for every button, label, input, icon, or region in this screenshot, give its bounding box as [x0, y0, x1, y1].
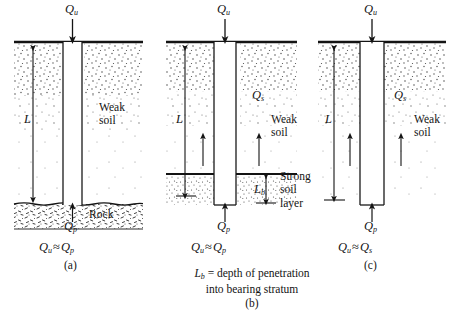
panel-b-weak-soil-label: Weak soil [271, 113, 297, 140]
panel-c-length-label: L [325, 112, 332, 127]
panel-a-caption: (a) [64, 259, 77, 271]
panel-c-equation: Qu≈Qs [338, 240, 372, 255]
panel-a-rock-label: Rock [89, 208, 114, 221]
panel-c-weak-soil-label: Weak soil [414, 113, 440, 140]
panel-b-note-line2: into bearing stratum [157, 282, 347, 296]
pile-foundation-figure: Qu L Weak soil Rock Qp Qu≈Qp (a) Qu L Qs… [0, 0, 460, 321]
panel-c-tip-load-label: Qp [364, 219, 377, 234]
panel-b-note: Lb = depth of penetration into bearing s… [157, 266, 347, 311]
panel-b-equation: Qu≈Qp [191, 240, 226, 255]
panel-b-note-line1: Lb = depth of penetration [157, 266, 347, 282]
panel-b-strong-soil-label: Strong soil layer [280, 170, 311, 210]
panel-c-caption: (c) [364, 259, 377, 271]
panel-a-tip-load-label: Qp [64, 219, 77, 234]
panel-a-load-label: Qu [65, 2, 78, 17]
panel-b-skin-friction-label: Qs [252, 88, 264, 103]
panel-b-length-label: L [176, 112, 183, 127]
panel-c-load-label: Qu [364, 2, 377, 17]
panel-b-tip-load-label: Qp [217, 219, 230, 234]
panel-a-weak-soil-label: Weak soil [99, 101, 125, 128]
panel-b-caption: (b) [157, 296, 347, 310]
panel-b-load-label: Qu [217, 2, 230, 17]
panel-a-length-label: L [24, 112, 31, 127]
panel-c-skin-friction-label: Qs [394, 88, 406, 103]
panel-a-equation: Qu≈Qp [39, 240, 74, 255]
panel-b-penetration-label: Lb [254, 182, 265, 197]
